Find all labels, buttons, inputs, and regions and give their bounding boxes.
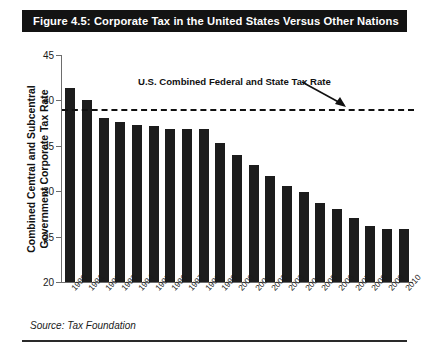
bar [215, 143, 225, 282]
y-axis-title-line-1: Combined Central and Subcentral [26, 85, 37, 252]
bar [199, 129, 209, 282]
bar [182, 129, 192, 282]
bar [132, 125, 142, 282]
bar [299, 192, 309, 282]
y-tick-label: 40 [28, 95, 54, 106]
y-axis-title: Combined Central and Subcentral Governme… [25, 85, 51, 252]
bar [165, 129, 175, 282]
bar [282, 186, 292, 282]
figure-container: Figure 4.5: Corporate Tax in the United … [0, 0, 429, 354]
bar [265, 176, 275, 282]
annotation-arrow-icon [300, 80, 360, 110]
y-axis-title-wrap: Combined Central and Subcentral Governme… [22, 55, 54, 283]
bar [249, 165, 259, 282]
bar [99, 118, 109, 282]
y-tick-label: 20 [28, 277, 54, 288]
source-note: Source: Tax Foundation [30, 320, 136, 331]
bar [315, 203, 325, 282]
y-tick-label: 45 [28, 50, 54, 61]
bar [332, 209, 342, 282]
bar [232, 155, 242, 282]
figure-title-bar: Figure 4.5: Corporate Tax in the United … [22, 10, 407, 32]
bar [65, 88, 75, 282]
bar [149, 126, 159, 282]
reference-line [62, 109, 414, 111]
y-tick-mark [56, 282, 62, 283]
figure-title: Figure 4.5: Corporate Tax in the United … [22, 15, 399, 27]
y-tick-label: 25 [28, 231, 54, 242]
y-tick-label: 30 [28, 186, 54, 197]
bar [349, 218, 359, 282]
bar [115, 122, 125, 282]
y-axis-title-line-2: Government Corporate Tax Rate [39, 89, 50, 248]
bar [82, 100, 92, 282]
y-tick-label: 35 [28, 140, 54, 151]
bottom-divider [22, 340, 407, 342]
